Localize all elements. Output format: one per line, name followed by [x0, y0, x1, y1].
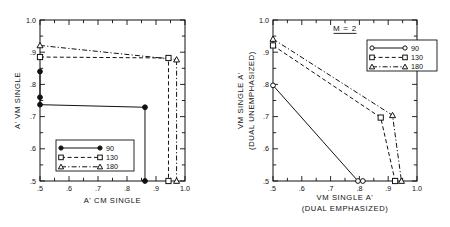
right-panel-legend-label-180: 180 — [411, 62, 423, 71]
left-panel-datapoint-130 — [166, 178, 171, 183]
left-panel-xtick-label: .8 — [124, 184, 130, 193]
right-panel-series-line-90 — [273, 85, 363, 181]
left-panel-xtick-label: .9 — [153, 184, 159, 193]
right-panel-xtick-label: .9 — [385, 184, 391, 193]
right-panel-datapoint-180 — [390, 112, 396, 117]
left-panel-legend-marker-130 — [59, 155, 64, 160]
left-panel-ytick-label: .8 — [30, 80, 36, 89]
left-panel-legend-marker-90 — [98, 146, 102, 150]
left-panel-ytick-label: .9 — [30, 48, 36, 57]
left-panel-xtick-label: .6 — [66, 184, 72, 193]
left-panel-legend-marker-130 — [98, 155, 103, 160]
right-panel-legend-marker-130 — [403, 55, 408, 60]
right-panel-yaxis-subtitle: (DUAL UNEMPHASIZED) — [247, 51, 256, 150]
left-panel-datapoint-90 — [143, 105, 148, 110]
left-panel-ytick-label: .6 — [30, 144, 36, 153]
right-panel-datapoint-130 — [270, 43, 275, 48]
right-panel-legend-label-130: 130 — [411, 53, 423, 62]
right-panel-ytick-label: .5 — [263, 177, 269, 186]
right-panel-legend-label-90: 90 — [411, 44, 419, 53]
right-panel-legend-marker-130 — [370, 55, 375, 60]
left-panel-yaxis-title: A' VM SINGLE — [13, 72, 22, 129]
right-panel: .5.6.7.8.91.0.5.6.7.8.91.0VM SINGLE A'(D… — [225, 0, 450, 227]
right-panel-ytick-label: .6 — [263, 144, 269, 153]
left-panel-legend-label-90: 90 — [106, 144, 114, 153]
right-panel-datapoint-90 — [360, 179, 365, 184]
left-panel-xtick-label: 1.0 — [180, 184, 190, 193]
right-panel-datapoint-130 — [378, 115, 383, 120]
left-panel-datapoint-90 — [38, 69, 43, 74]
right-panel-panel-title: M = 2 — [333, 24, 357, 33]
right-panel-xtick-label: .6 — [299, 184, 305, 193]
right-panel-xaxis-title: VM SINGLE A' — [317, 193, 374, 202]
left-panel-ytick-label: .7 — [30, 112, 36, 121]
left-panel-datapoint-90 — [38, 102, 43, 107]
left-panel-xtick-label: .7 — [95, 184, 101, 193]
right-panel-xtick-label: .5 — [270, 184, 276, 193]
right-panel-ytick-label: .9 — [263, 48, 269, 57]
right-panel-datapoint-90 — [356, 179, 361, 184]
right-panel-ytick-label: .7 — [263, 112, 269, 121]
left-panel-legend-marker-90 — [59, 146, 63, 150]
left-panel-ytick-label: .5 — [30, 177, 36, 186]
right-panel-canvas: .5.6.7.8.91.0.5.6.7.8.91.0VM SINGLE A'(D… — [225, 0, 450, 227]
right-panel-datapoint-90 — [271, 83, 276, 88]
right-panel-ytick-label: 1.0 — [259, 16, 269, 25]
right-panel-datapoint-130 — [393, 178, 398, 183]
right-panel-legend-marker-90 — [370, 46, 374, 50]
right-panel-yaxis-title: VM SINGLE A' — [236, 72, 245, 129]
left-panel-datapoint-130 — [37, 54, 42, 59]
right-panel-xtick-label: .8 — [356, 184, 362, 193]
left-panel-legend-label-180: 180 — [106, 162, 118, 171]
right-panel-datapoint-180 — [270, 36, 276, 41]
left-panel-ytick-label: 1.0 — [26, 16, 36, 25]
left-panel: .5.6.7.8.91.0.5.6.7.8.91.0A' CM SINGLEA'… — [0, 0, 225, 227]
left-panel-datapoint-90 — [38, 95, 43, 100]
left-panel-xtick-label: .5 — [37, 184, 43, 193]
right-panel-legend-marker-90 — [403, 46, 407, 50]
right-panel-xaxis-subtitle: (DUAL EMPHASIZED) — [302, 204, 389, 213]
right-panel-xtick-label: .7 — [328, 184, 334, 193]
left-panel-xaxis-title: A' CM SINGLE — [84, 196, 142, 205]
left-panel-legend-label-130: 130 — [106, 153, 118, 162]
figure-two-panel-plot: .5.6.7.8.91.0.5.6.7.8.91.0A' CM SINGLEA'… — [0, 0, 450, 227]
right-panel-xtick-label: 1.0 — [412, 184, 422, 193]
left-panel-datapoint-130 — [166, 55, 171, 60]
right-panel-legend-box — [367, 40, 437, 71]
right-panel-ytick-label: .8 — [263, 80, 269, 89]
left-panel-canvas: .5.6.7.8.91.0.5.6.7.8.91.0A' CM SINGLEA'… — [0, 0, 225, 227]
left-panel-datapoint-180 — [37, 42, 43, 47]
left-panel-datapoint-90 — [143, 179, 148, 184]
